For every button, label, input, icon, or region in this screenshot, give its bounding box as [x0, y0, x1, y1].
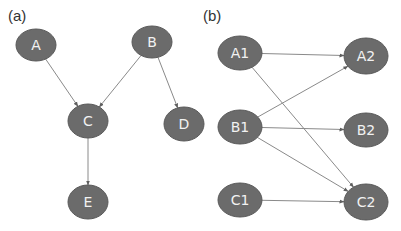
edge-b1-to-a2: [258, 66, 348, 117]
edge-b-to-c: [99, 55, 141, 107]
node-e: E: [68, 185, 108, 219]
edge-a1-to-a2: [262, 54, 344, 56]
node-label: A: [31, 37, 41, 53]
node-a2: A2: [344, 38, 388, 74]
graph-diagram: ABCDEA1A2B1B2C1C2: [0, 0, 401, 231]
node-label: B2: [357, 122, 376, 138]
node-d: D: [164, 107, 204, 141]
node-b: B: [132, 26, 172, 58]
node-label: D: [179, 116, 190, 132]
node-label: A2: [357, 48, 375, 64]
node-c: C: [68, 104, 108, 138]
edge-a-to-c: [46, 59, 78, 106]
node-a: A: [16, 29, 56, 61]
node-label: C2: [357, 194, 376, 210]
node-c1: C1: [218, 183, 262, 217]
node-label: E: [84, 194, 93, 210]
edge-b-to-d: [158, 57, 178, 108]
node-label: B: [147, 34, 157, 50]
node-label: B1: [231, 119, 250, 135]
node-c2: C2: [344, 184, 388, 220]
node-label: C1: [231, 192, 250, 208]
node-b1: B1: [218, 110, 262, 144]
node-label: C: [83, 113, 93, 129]
node-a1: A1: [218, 36, 262, 70]
node-b2: B2: [344, 113, 388, 147]
node-label: A1: [231, 45, 249, 61]
edge-c1-to-c2: [262, 200, 344, 201]
